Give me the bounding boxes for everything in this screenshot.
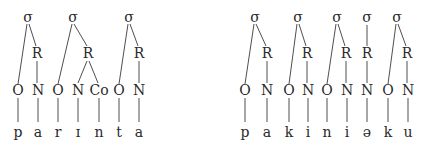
edge-sigma-onset	[245, 24, 254, 84]
edge-sigma-onset	[289, 24, 297, 84]
onset-node: O	[382, 82, 393, 98]
rime-node: R	[32, 45, 43, 61]
rime-node: R	[83, 45, 94, 61]
segment: i	[306, 124, 311, 140]
sigma-node: σ	[362, 9, 372, 25]
edge-rime-nucleus	[78, 61, 87, 83]
sigma-node: σ	[293, 9, 303, 25]
segment: n	[94, 124, 103, 140]
syllable-2: σ R O N Co	[52, 9, 108, 122]
rime-node: R	[262, 45, 273, 61]
segment: a	[34, 124, 42, 140]
segment: ɪ	[76, 124, 81, 140]
edge-sigma-rime	[256, 24, 266, 46]
segment: u	[403, 124, 412, 140]
onset-node: O	[52, 82, 63, 98]
rime-node: R	[362, 45, 373, 61]
sigma-node: σ	[68, 9, 78, 25]
sigma-node: σ	[124, 9, 134, 25]
onset-node: O	[113, 82, 124, 98]
segment: k	[285, 124, 294, 140]
onset-node: O	[321, 82, 332, 98]
syllable-2: σ R O N	[283, 9, 314, 122]
syllable-3: σ R O N	[321, 9, 353, 122]
edge-sigma-onset	[327, 24, 336, 84]
sigma-node: σ	[250, 9, 260, 25]
segment: a	[263, 124, 271, 140]
nucleus-node: N	[133, 82, 145, 98]
rime-node: R	[134, 45, 145, 61]
edge-sigma-rime	[299, 24, 306, 46]
edge-sigma-onset	[119, 24, 128, 84]
nucleus-node: N	[361, 82, 373, 98]
edge-sigma-rime	[74, 24, 87, 46]
edge-rime-coda	[89, 61, 98, 83]
segment: a	[135, 124, 143, 140]
nucleus-node: N	[402, 82, 414, 98]
onset-node: O	[283, 82, 294, 98]
edge-sigma-onset	[18, 24, 27, 84]
onset-node: O	[12, 82, 23, 98]
syllable-4: σ R N	[361, 9, 373, 122]
segment: ə	[363, 124, 371, 140]
segment: r	[55, 124, 62, 140]
tree-parinta: σ R O N σ R O N Co σ R	[12, 9, 145, 140]
nucleus-node: N	[261, 82, 273, 98]
syllable-structure-diagrams: σ R O N σ R O N Co σ R	[0, 0, 439, 153]
syllable-3: σ R O N	[113, 9, 145, 122]
nucleus-node: N	[341, 82, 353, 98]
edge-sigma-onset	[388, 24, 396, 84]
nucleus-node: N	[32, 82, 44, 98]
sigma-node: σ	[332, 9, 342, 25]
syllable-1: σ R O N	[12, 9, 44, 122]
edge-sigma-rime	[338, 24, 345, 46]
syllable-5: σ R O N	[382, 9, 414, 122]
segment-tier: p a r ɪ n t a	[14, 124, 144, 140]
edge-sigma-rime	[398, 24, 406, 46]
edge-sigma-onset	[58, 24, 72, 84]
tree-pakiniaku: σ R O N σ R O N σ R O N	[239, 9, 414, 140]
nucleus-node: N	[302, 82, 314, 98]
sigma-node: σ	[392, 9, 402, 25]
sigma-node: σ	[23, 9, 33, 25]
segment-tier: p a k i n i ə k u	[241, 124, 413, 140]
rime-node: R	[402, 45, 413, 61]
segment: i	[345, 124, 350, 140]
syllable-1: σ R O N	[239, 9, 273, 122]
segment: p	[14, 124, 23, 140]
edge-sigma-rime	[29, 24, 36, 46]
coda-node: Co	[89, 82, 108, 98]
segment: k	[384, 124, 393, 140]
nucleus-node: N	[72, 82, 84, 98]
segment: p	[241, 124, 250, 140]
edge-sigma-rime	[130, 24, 138, 46]
onset-node: O	[239, 82, 250, 98]
rime-node: R	[302, 45, 313, 61]
segment: n	[322, 124, 331, 140]
rime-node: R	[341, 45, 352, 61]
segment: t	[116, 124, 122, 140]
